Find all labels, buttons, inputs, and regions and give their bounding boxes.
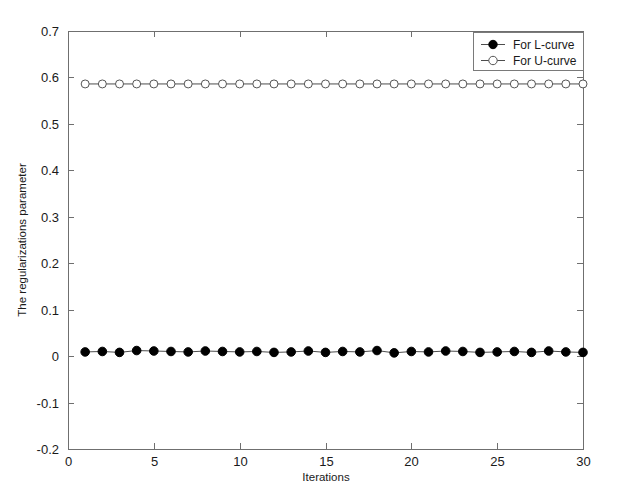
data-point-l-curve: [459, 347, 468, 356]
chart-plot: 051015202530-0.2-0.100.10.20.30.40.50.60…: [0, 0, 617, 501]
data-point-u-curve: [184, 80, 192, 88]
data-point-l-curve: [304, 347, 313, 356]
data-point-u-curve: [425, 80, 433, 88]
y-tick-label: 0.6: [41, 70, 59, 85]
data-point-l-curve: [98, 347, 107, 356]
y-tick-label: 0.1: [41, 303, 59, 318]
data-point-l-curve: [493, 348, 502, 357]
data-point-u-curve: [407, 80, 415, 88]
data-series: [81, 80, 587, 357]
figure-canvas: 051015202530-0.2-0.100.10.20.30.40.50.60…: [0, 0, 617, 501]
data-point-l-curve: [184, 348, 193, 357]
data-point-l-curve: [544, 347, 553, 356]
data-point-l-curve: [287, 348, 296, 357]
data-point-l-curve: [132, 346, 141, 355]
y-tick-label: 0.3: [41, 210, 59, 225]
y-tick-label: 0.7: [41, 24, 59, 39]
data-point-l-curve: [407, 347, 416, 356]
data-point-u-curve: [167, 80, 175, 88]
data-point-u-curve: [98, 80, 106, 88]
y-tick-label: 0.2: [41, 256, 59, 271]
y-tick-label: -0.1: [37, 396, 59, 411]
x-tick-label: 25: [490, 454, 504, 469]
data-point-u-curve: [339, 80, 347, 88]
data-point-u-curve: [270, 80, 278, 88]
data-point-l-curve: [579, 348, 588, 357]
plot-frame: [69, 32, 584, 450]
data-point-l-curve: [218, 347, 227, 356]
legend-label-l-curve: For L-curve: [513, 38, 575, 52]
data-point-l-curve: [390, 349, 399, 358]
data-point-u-curve: [81, 80, 89, 88]
y-tick-label: 0.4: [41, 163, 59, 178]
x-tick-label: 5: [151, 454, 158, 469]
series-line-l-curve: [85, 351, 583, 353]
data-point-u-curve: [390, 80, 398, 88]
data-point-l-curve: [373, 346, 382, 355]
data-point-l-curve: [338, 347, 347, 356]
data-point-u-curve: [253, 80, 261, 88]
data-point-u-curve: [579, 80, 587, 88]
legend-label-u-curve: For U-curve: [513, 54, 577, 68]
data-point-l-curve: [270, 348, 279, 357]
data-point-u-curve: [287, 80, 295, 88]
data-point-u-curve: [562, 80, 570, 88]
x-tick-label: 15: [319, 454, 333, 469]
data-point-u-curve: [133, 80, 141, 88]
data-point-l-curve: [201, 347, 210, 356]
data-point-l-curve: [562, 348, 571, 357]
data-point-u-curve: [304, 80, 312, 88]
data-point-u-curve: [476, 80, 484, 88]
data-point-l-curve: [441, 347, 450, 356]
data-point-u-curve: [150, 80, 158, 88]
data-point-u-curve: [528, 80, 536, 88]
data-point-l-curve: [253, 347, 262, 356]
y-tick-label: -0.2: [37, 442, 59, 457]
x-tick-label: 30: [576, 454, 590, 469]
data-point-u-curve: [459, 80, 467, 88]
data-point-l-curve: [356, 348, 365, 357]
x-tick-label: 0: [65, 454, 72, 469]
y-tick-label: 0: [52, 349, 59, 364]
data-point-l-curve: [235, 348, 244, 357]
data-point-l-curve: [321, 348, 330, 357]
y-tick-label: 0.5: [41, 117, 59, 132]
data-point-l-curve: [150, 347, 159, 356]
data-point-u-curve: [322, 80, 330, 88]
data-point-l-curve: [424, 348, 433, 357]
data-point-u-curve: [116, 80, 124, 88]
data-point-u-curve: [373, 80, 381, 88]
chart-legend: For L-curve For U-curve: [474, 33, 584, 71]
data-point-u-curve: [545, 80, 553, 88]
axes: [68, 31, 584, 450]
x-tick-label: 20: [404, 454, 418, 469]
x-tick-label: 10: [233, 454, 247, 469]
data-point-u-curve: [236, 80, 244, 88]
data-point-l-curve: [476, 348, 485, 357]
tick-labels: 051015202530-0.2-0.100.10.20.30.40.50.60…: [37, 24, 591, 469]
data-point-u-curve: [219, 80, 227, 88]
y-axis-label: The regularizations parameter: [16, 163, 28, 317]
data-point-u-curve: [201, 80, 209, 88]
data-point-u-curve: [493, 80, 501, 88]
data-point-l-curve: [167, 347, 176, 356]
legend-marker-l-curve-icon: [489, 40, 497, 48]
data-point-u-curve: [510, 80, 518, 88]
data-point-u-curve: [356, 80, 364, 88]
data-point-l-curve: [81, 348, 90, 357]
data-point-u-curve: [442, 80, 450, 88]
data-point-l-curve: [527, 348, 536, 357]
x-axis-label: Iterations: [302, 471, 350, 483]
legend-marker-u-curve-icon: [489, 56, 497, 64]
data-point-l-curve: [510, 347, 519, 356]
data-point-l-curve: [115, 348, 124, 357]
